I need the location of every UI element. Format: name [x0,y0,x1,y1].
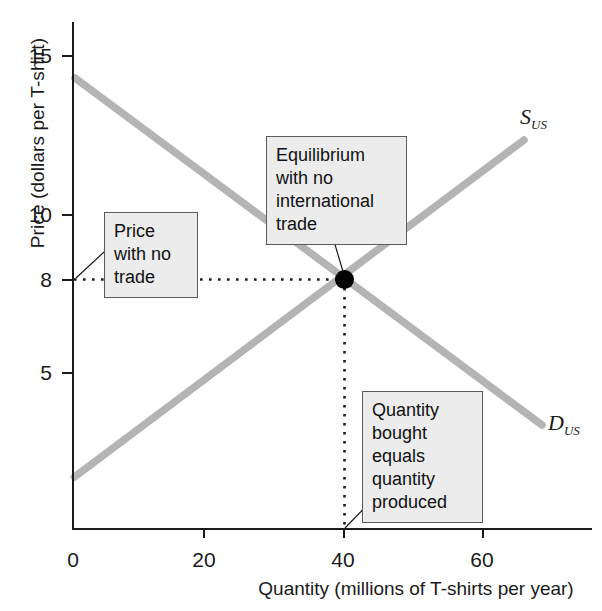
x-tick-label-20: 20 [174,549,234,570]
x-tick-label-0: 0 [43,549,103,570]
y-tick-15 [62,55,73,57]
x-axis [72,528,592,530]
supply-curve-label: SUS [520,104,547,133]
y-tick-5 [62,372,73,374]
y-axis-title: Price (dollars per T-shirt) [27,13,49,273]
supply-demand-chart: 15 10 8 5 0 20 40 60 Price (dollars per … [0,0,602,611]
demand-curve-label-main: D [548,410,564,435]
x-tick-60 [482,528,484,538]
x-tick-label-60: 60 [452,549,512,570]
demand-curve-label-sub: US [564,423,580,438]
supply-curve-label-sub: US [531,117,547,132]
x-tick-40 [343,528,345,538]
callout-equilibrium-no-international-trade: Equilibrium with no international trade [266,136,407,245]
equilibrium-point-marker [335,270,354,289]
callout-quantity-bought-equals-produced: Quantity bought equals quantity produced [362,391,483,523]
demand-curve-label: DUS [548,410,580,439]
y-tick-10 [62,214,73,216]
y-tick-label-5: 5 [12,362,52,383]
x-tick-20 [203,528,205,538]
y-axis [72,22,74,530]
supply-curve-label-main: S [520,104,531,129]
chart-plot-area [0,0,602,611]
price-callout-leader-line [76,252,104,278]
callout-price-with-no-trade: Price with no trade [104,212,198,298]
x-axis-title: Quantity (millions of T-shirts per year) [232,578,600,600]
x-tick-label-40: 40 [313,549,373,570]
y-tick-8 [62,279,73,281]
